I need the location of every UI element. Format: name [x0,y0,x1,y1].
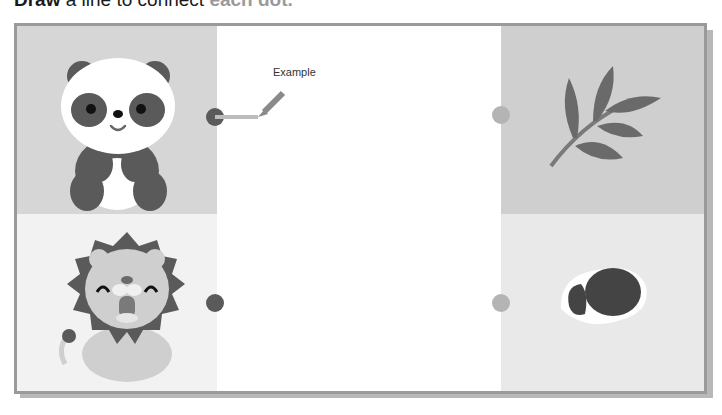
panda-dot[interactable] [206,108,224,126]
panda-cell [17,26,217,214]
instruction-title: Draw a line to connect each dot. [14,0,293,11]
lion-cell [17,214,217,391]
lion-dot[interactable] [206,294,224,312]
instruction-verb: Draw [14,0,60,10]
matching-card [14,23,707,394]
example-label: Example [273,66,316,78]
instruction-text: a line to connect [60,0,204,10]
bamboo-dot[interactable] [492,106,510,124]
meat-icon [501,214,704,391]
lion-icon [17,214,217,391]
meat-dot[interactable] [492,294,510,312]
panda-icon [17,26,217,214]
bamboo-cell [501,26,704,214]
instruction-rest: each dot. [204,0,293,10]
meat-cell [501,214,704,391]
bamboo-leaf-icon [501,26,704,214]
